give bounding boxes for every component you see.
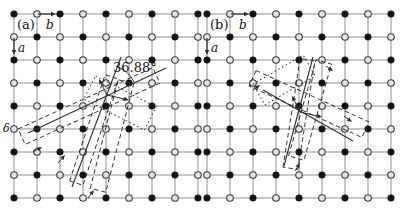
filled-lattice-site [250, 11, 257, 18]
filled-lattice-site [34, 80, 41, 87]
filled-lattice-site [227, 126, 234, 133]
filled-lattice-site [227, 80, 234, 87]
open-lattice-site [34, 57, 41, 64]
filled-lattice-site [319, 34, 326, 41]
open-lattice-site [103, 80, 110, 87]
open-lattice-site [273, 11, 280, 18]
open-lattice-site [388, 34, 395, 41]
delta-site-label: δ [3, 122, 10, 135]
open-lattice-site [388, 80, 395, 87]
open-lattice-site [227, 195, 234, 202]
open-lattice-site [34, 195, 41, 202]
filled-lattice-site [34, 34, 41, 41]
filled-lattice-site [342, 57, 349, 64]
open-lattice-site [195, 80, 202, 87]
filled-lattice-site [250, 57, 257, 64]
filled-lattice-site [342, 103, 349, 110]
open-lattice-site [319, 11, 326, 18]
open-lattice-site [149, 172, 156, 179]
axis-b-label: b [46, 18, 54, 32]
open-lattice-site [365, 11, 372, 18]
filled-lattice-site [103, 11, 110, 18]
open-lattice-site [11, 126, 18, 133]
open-lattice-site [11, 80, 18, 87]
axis-a-label: a [211, 41, 218, 55]
filled-lattice-site [296, 195, 303, 202]
filled-lattice-site [319, 80, 326, 87]
filled-lattice-site [250, 195, 257, 202]
axis-b-label: b [239, 18, 247, 32]
filled-lattice-site [296, 57, 303, 64]
open-lattice-site [195, 34, 202, 41]
open-lattice-site [365, 149, 372, 156]
filled-lattice-site [80, 126, 87, 133]
open-lattice-site [273, 57, 280, 64]
open-lattice-site [149, 34, 156, 41]
filled-lattice-site [172, 172, 179, 179]
filled-lattice-site [319, 126, 326, 133]
filled-lattice-site [365, 34, 372, 41]
panel-label: (a) [17, 17, 35, 32]
filled-lattice-site [80, 80, 87, 87]
filled-lattice-site [204, 149, 211, 156]
filled-lattice-site [296, 149, 303, 156]
panel-b: (b)ba [204, 11, 395, 202]
open-lattice-site [103, 172, 110, 179]
filled-lattice-site [172, 126, 179, 133]
filled-lattice-site [11, 103, 18, 110]
open-lattice-site [296, 172, 303, 179]
open-lattice-site [172, 195, 179, 202]
open-lattice-site [250, 126, 257, 133]
open-lattice-site [250, 172, 257, 179]
open-lattice-site [172, 103, 179, 110]
filled-lattice-site [126, 172, 133, 179]
open-lattice-site [126, 149, 133, 156]
filled-lattice-site [227, 34, 234, 41]
filled-lattice-site [149, 103, 156, 110]
open-lattice-site [204, 80, 211, 87]
filled-lattice-site [149, 11, 156, 18]
filled-lattice-site [388, 149, 395, 156]
filled-lattice-site [172, 34, 179, 41]
filled-lattice-site [227, 172, 234, 179]
open-lattice-site [195, 172, 202, 179]
open-lattice-site [342, 34, 349, 41]
open-lattice-site [319, 149, 326, 156]
panel-label: (b) [210, 17, 228, 32]
open-lattice-site [250, 34, 257, 41]
open-lattice-site [227, 57, 234, 64]
filled-lattice-site [57, 103, 64, 110]
filled-lattice-site [149, 149, 156, 156]
filled-lattice-site [80, 34, 87, 41]
open-lattice-site [172, 57, 179, 64]
open-lattice-site [250, 80, 257, 87]
filled-lattice-site [172, 80, 179, 87]
filled-lattice-site [342, 195, 349, 202]
filled-lattice-site [319, 172, 326, 179]
open-lattice-site [57, 126, 64, 133]
open-lattice-site [204, 172, 211, 179]
open-lattice-site [126, 11, 133, 18]
open-lattice-site [365, 103, 372, 110]
figure-svg: (a)ba36.88°δ(b)ba [0, 0, 401, 212]
lattice-points [204, 11, 395, 202]
filled-lattice-site [250, 149, 257, 156]
axis-a-label: a [18, 41, 25, 55]
open-lattice-site [319, 195, 326, 202]
filled-lattice-site [80, 172, 87, 179]
filled-lattice-site [388, 57, 395, 64]
filled-lattice-site [11, 195, 18, 202]
filled-lattice-site [296, 11, 303, 18]
filled-lattice-site [103, 195, 110, 202]
open-lattice-site [273, 103, 280, 110]
filled-lattice-site [195, 103, 202, 110]
filled-lattice-site [388, 195, 395, 202]
open-lattice-site [80, 57, 87, 64]
filled-lattice-site [273, 126, 280, 133]
open-lattice-site [149, 80, 156, 87]
open-lattice-site [57, 80, 64, 87]
filled-lattice-site [195, 11, 202, 18]
crystal-lattice-figure: (a)ba36.88°δ(b)ba [0, 0, 401, 212]
open-lattice-site [11, 172, 18, 179]
open-lattice-site [227, 149, 234, 156]
